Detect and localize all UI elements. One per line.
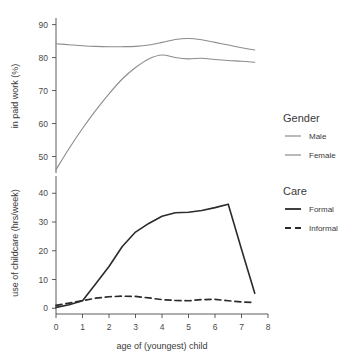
- bottom-y-tick-label: 0: [43, 303, 48, 313]
- series-line-male: [56, 38, 255, 50]
- top-y-tick-label: 50: [39, 152, 49, 162]
- bottom-y-tick-label: 40: [39, 188, 49, 198]
- legend-label-male: Male: [309, 132, 327, 141]
- top-panel: 5060708090 in paid work (%): [10, 18, 255, 173]
- x-tick-label: 4: [160, 322, 165, 332]
- x-tick-label: 8: [266, 322, 271, 332]
- x-tick-label: 5: [186, 322, 191, 332]
- series-line-female: [56, 55, 255, 170]
- series-line-formal: [56, 204, 255, 307]
- chart-figure: 5060708090 in paid work (%) 010203040 01…: [0, 0, 349, 361]
- legend-group-title: Care: [283, 185, 307, 197]
- bottom-series-group: [56, 204, 255, 307]
- legend-label-formal: Formal: [309, 205, 334, 214]
- bottom-y-tick-label: 10: [39, 275, 49, 285]
- bottom-y-tick-group: 010203040: [39, 188, 56, 313]
- top-y-tick-label: 80: [39, 53, 49, 63]
- x-tick-label: 6: [213, 322, 218, 332]
- x-tick-group: 012345678: [54, 314, 271, 332]
- chart-legend: GenderMaleFemaleCareFormalInformal: [283, 112, 338, 233]
- x-tick-label: 0: [54, 322, 59, 332]
- bottom-y-tick-label: 30: [39, 217, 49, 227]
- x-tick-label: 2: [107, 322, 112, 332]
- top-y-tick-group: 5060708090: [39, 20, 56, 162]
- x-axis-title: age of (youngest) child: [116, 341, 207, 351]
- top-y-tick-label: 90: [39, 20, 49, 30]
- bottom-panel: 010203040 012345678 use of childcare (hr…: [10, 176, 271, 351]
- top-y-axis-title: in paid work (%): [10, 64, 20, 129]
- top-y-tick-label: 60: [39, 119, 49, 129]
- x-tick-label: 1: [80, 322, 85, 332]
- bottom-y-axis-title: use of childcare (hrs/week): [10, 189, 20, 297]
- top-series-group: [56, 38, 255, 169]
- x-tick-label: 7: [239, 322, 244, 332]
- x-tick-label: 3: [133, 322, 138, 332]
- legend-label-informal: Informal: [309, 224, 338, 233]
- bottom-y-tick-label: 20: [39, 246, 49, 256]
- legend-group-title: Gender: [283, 112, 320, 124]
- top-y-tick-label: 70: [39, 86, 49, 96]
- legend-label-female: Female: [309, 151, 336, 160]
- chart-svg: 5060708090 in paid work (%) 010203040 01…: [0, 0, 349, 361]
